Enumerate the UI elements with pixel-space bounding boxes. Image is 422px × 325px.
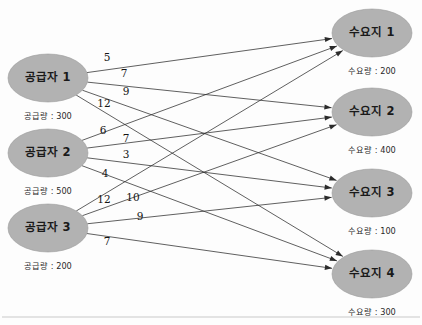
edge-cost-s2-d4: 4 — [102, 167, 109, 179]
edge-s2-d1 — [82, 46, 337, 140]
destination-node-label: 수요지 1 — [349, 25, 394, 39]
arrowhead-s3-d2 — [329, 125, 337, 130]
arrowhead-s3-d4 — [325, 265, 333, 270]
edge-cost-s1-d1: 5 — [104, 51, 111, 63]
destination-node-3[interactable]: 수요지 3수요량 : 100 — [332, 169, 412, 236]
arrowhead-s1-d3 — [329, 176, 337, 181]
supply-amount-label: 공급량 : 200 — [24, 261, 72, 271]
edge-cost-labels-layer: 579126734121097 — [97, 51, 143, 247]
supplier-node-1[interactable]: 공급자 1공급량 : 300 — [8, 54, 88, 121]
edge-cost-s2-d1: 6 — [100, 124, 107, 136]
edge-cost-s3-d1: 12 — [97, 193, 110, 205]
edge-s1-d3 — [82, 90, 336, 180]
supplier-node-label: 공급자 1 — [25, 70, 70, 84]
transportation-network-diagram: 공급자 1공급량 : 300공급자 2공급량 : 500공급자 3공급량 : 2… — [0, 0, 422, 325]
edge-cost-s1-d2: 7 — [121, 67, 128, 79]
edge-cost-s3-d4: 7 — [104, 235, 111, 247]
supply-amount-label: 공급량 : 300 — [24, 111, 72, 121]
arrowhead-s3-d3 — [324, 196, 331, 201]
arrowhead-s3-d1 — [335, 51, 343, 57]
destination-node-label: 수요지 4 — [349, 266, 394, 280]
arrowhead-s1-d1 — [325, 37, 332, 42]
destination-node-label: 수요지 3 — [349, 185, 394, 199]
supplier-node-label: 공급자 3 — [25, 220, 70, 234]
edge-s3-d1 — [76, 51, 343, 211]
arrowhead-s2-d4 — [329, 256, 337, 261]
arrowheads-layer — [324, 37, 343, 270]
edge-s3-d3 — [87, 197, 331, 223]
edge-s3-d4 — [87, 234, 332, 269]
edge-cost-s2-d2: 7 — [123, 132, 130, 144]
edge-s1-d4 — [76, 95, 343, 256]
supplier-node-2[interactable]: 공급자 2공급량 : 500 — [8, 129, 88, 196]
diagram-canvas: 공급자 1공급량 : 300공급자 2공급량 : 500공급자 3공급량 : 2… — [0, 0, 422, 325]
destination-node-4[interactable]: 수요지 4수요량 : 300 — [332, 250, 412, 317]
edge-cost-s3-d2: 10 — [126, 191, 139, 203]
destination-node-2[interactable]: 수요지 2수요량 : 400 — [332, 88, 412, 155]
edge-cost-s1-d4: 12 — [97, 97, 110, 109]
edges-layer — [76, 39, 343, 269]
edge-cost-s3-d3: 9 — [137, 210, 144, 222]
supply-amount-label: 공급량 : 500 — [24, 186, 72, 196]
arrowhead-s2-d3 — [324, 185, 331, 190]
edge-cost-s1-d3: 9 — [123, 85, 130, 97]
edge-s2-d3 — [87, 158, 332, 188]
demand-amount-label: 수요량 : 300 — [348, 307, 396, 317]
supplier-node-label: 공급자 2 — [25, 145, 70, 159]
destination-node-1[interactable]: 수요지 1수요량 : 200 — [332, 9, 412, 76]
arrowhead-s2-d2 — [324, 115, 331, 120]
edge-cost-s2-d3: 3 — [123, 148, 130, 160]
arrowhead-s2-d1 — [329, 46, 337, 51]
demand-amount-label: 수요량 : 100 — [348, 226, 396, 236]
edge-s2-d4 — [82, 166, 337, 261]
arrowhead-s1-d4 — [335, 250, 343, 256]
demand-amount-label: 수요량 : 400 — [348, 145, 396, 155]
edge-s3-d2 — [82, 125, 336, 216]
demand-amount-label: 수요량 : 200 — [348, 66, 396, 76]
arrowhead-s1-d2 — [324, 104, 331, 109]
destination-node-label: 수요지 2 — [349, 104, 394, 118]
supplier-node-3[interactable]: 공급자 3공급량 : 200 — [8, 204, 88, 271]
